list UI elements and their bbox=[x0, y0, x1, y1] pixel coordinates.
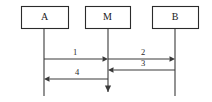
participant-box-m[interactable]: M bbox=[86, 7, 131, 29]
participant-box-a[interactable]: A bbox=[22, 7, 69, 29]
participant-label-m: M bbox=[103, 11, 112, 22]
participant-box-b[interactable]: B bbox=[153, 7, 199, 29]
sequence-diagram-canvas: 1234 AMB bbox=[0, 0, 212, 102]
messages-layer: 1234 bbox=[44, 47, 175, 82]
message-arrowhead-icon-msg-4 bbox=[44, 76, 50, 82]
lifeline-terminator-arrow-icon-m bbox=[105, 86, 111, 93]
message-arrowhead-icon-msg-2 bbox=[170, 56, 176, 62]
participant-label-a: A bbox=[41, 11, 49, 22]
participant-label-b: B bbox=[172, 11, 179, 22]
sequence-diagram-svg: 1234 AMB bbox=[0, 0, 212, 102]
message-arrowhead-icon-msg-1 bbox=[103, 56, 109, 62]
message-label-msg-3: 3 bbox=[141, 58, 145, 68]
message-label-msg-4: 4 bbox=[75, 67, 80, 77]
lifelines-layer bbox=[44, 28, 175, 96]
participant-boxes-layer: AMB bbox=[22, 7, 199, 29]
message-msg-3[interactable]: 3 bbox=[108, 58, 175, 73]
message-arrowhead-icon-msg-3 bbox=[108, 67, 114, 73]
message-label-msg-1: 1 bbox=[73, 47, 77, 57]
message-label-msg-2: 2 bbox=[141, 47, 145, 57]
message-msg-4[interactable]: 4 bbox=[44, 67, 108, 82]
message-msg-1[interactable]: 1 bbox=[44, 47, 108, 62]
